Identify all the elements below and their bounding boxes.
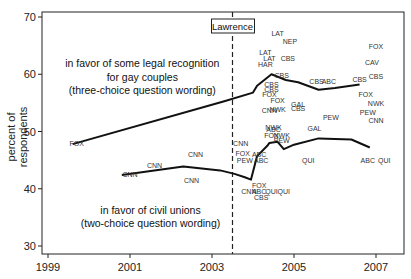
poll-label: QUI	[378, 157, 391, 165]
poll-label: FOX	[359, 91, 374, 98]
chart-annotation: (three-choice question wording)	[69, 84, 216, 96]
y-tick-label: 60	[24, 68, 36, 80]
poll-trend-chart: 304050607019992001200320052007LawrenceFO…	[0, 0, 411, 279]
poll-label: FOX	[270, 97, 285, 104]
poll-label: HAR	[258, 61, 273, 68]
x-tick-label: 2005	[282, 261, 306, 273]
x-tick-label: 1999	[36, 261, 60, 273]
poll-label: PEW	[323, 114, 339, 121]
poll-label: PEW	[237, 157, 253, 164]
poll-label: FOX	[369, 43, 384, 50]
chart-annotation: in favor of civil unions	[100, 204, 200, 216]
poll-label: CNN	[184, 177, 199, 184]
poll-label: PEW	[274, 137, 290, 144]
chart-svg: 304050607019992001200320052007LawrenceFO…	[0, 0, 411, 279]
chart-annotation: in favor of some legal recognition	[65, 57, 219, 69]
poll-label: CNN	[122, 171, 137, 178]
poll-label: PEW	[360, 109, 376, 116]
poll-label: ABC	[361, 157, 375, 164]
lawrence-label: Lawrence	[212, 21, 253, 32]
poll-label: GAL	[307, 125, 321, 132]
poll-label: CBS	[281, 55, 296, 62]
y-axis-label: percent of respondents	[5, 82, 29, 192]
poll-label: NWK	[269, 106, 286, 113]
poll-label: CBS	[352, 76, 367, 83]
poll-label: CBS	[274, 72, 289, 79]
y-tick-label: 30	[24, 240, 36, 252]
poll-label: CBS	[254, 194, 269, 201]
poll-label: FOX	[70, 140, 85, 147]
poll-label: NEP	[283, 38, 298, 45]
chart-annotation: for gay couples	[107, 71, 178, 83]
poll-label: CNN	[147, 162, 162, 169]
y-tick-label: 70	[24, 11, 36, 23]
poll-label: CNN	[188, 151, 203, 158]
x-tick-label: 2007	[364, 261, 388, 273]
poll-label: ABC	[322, 78, 336, 85]
poll-label: CNN	[368, 117, 383, 124]
x-tick-label: 2001	[118, 261, 142, 273]
poll-label: LAT	[271, 30, 284, 37]
poll-label: QUI	[278, 188, 291, 196]
chart-annotation: (two-choice question wording)	[81, 217, 220, 229]
poll-label: NWK	[368, 100, 385, 107]
poll-label: CAV	[365, 59, 379, 66]
poll-label: CBS	[369, 73, 384, 80]
x-tick-label: 2003	[200, 261, 224, 273]
poll-label: ABC	[254, 157, 268, 164]
poll-label: CNN	[233, 140, 248, 147]
poll-label: QUI	[302, 157, 315, 165]
poll-label: CBS	[291, 105, 306, 112]
